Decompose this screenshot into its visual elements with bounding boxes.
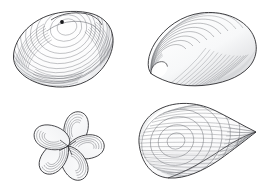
plate-canvas xyxy=(0,0,267,187)
clam-umbo-dot xyxy=(60,20,64,24)
shell-illustration-plate xyxy=(0,0,267,187)
